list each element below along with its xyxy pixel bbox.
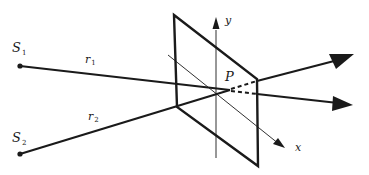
x-axis-arrow-icon: [273, 138, 285, 148]
path-r2-label: r2: [88, 110, 99, 124]
ray-r1-hidden-segment: [231, 91, 257, 94]
ray-r2-hidden-segment: [231, 81, 257, 89]
source-s1-label: S1: [12, 40, 26, 57]
outgoing-ray-upper-arrow-icon: [329, 54, 354, 69]
outgoing-ray-lower-arrow-icon: [332, 96, 353, 111]
interference-diagram: S1 S2 r1 r2 P y x: [0, 0, 369, 175]
outgoing-ray-upper: [257, 60, 338, 81]
point-p-label: P: [224, 69, 234, 84]
source-s1-dot: [17, 63, 22, 68]
x-axis-label: x: [295, 141, 302, 154]
ray-r1: [20, 66, 230, 90]
y-axis-label: y: [224, 14, 232, 27]
source-s2-label: S2: [12, 130, 26, 147]
x-axis: [168, 55, 279, 144]
source-s2-dot: [17, 151, 22, 156]
path-r1-label: r1: [85, 53, 96, 67]
y-axis-arrow-icon: [213, 17, 220, 29]
outgoing-ray-lower: [257, 94, 338, 103]
